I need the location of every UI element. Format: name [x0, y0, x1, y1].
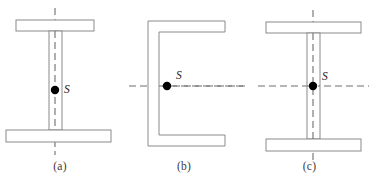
panel-b: S (b): [120, 0, 248, 182]
panel-b-drawing: S: [120, 0, 248, 182]
shear-center-dot-a: [51, 86, 59, 94]
bottom-flange-a: [6, 130, 111, 142]
panel-c: S (c): [248, 0, 371, 182]
panel-c-drawing: S: [248, 0, 371, 182]
top-flange-c: [266, 22, 361, 33]
caption-c: (c): [248, 160, 371, 172]
shear-center-label-a: S: [64, 83, 70, 95]
shear-center-figure: S (a) S (b): [0, 0, 371, 182]
shear-center-dot-c: [309, 82, 317, 90]
shear-center-label-c: S: [322, 70, 328, 82]
channel-outline-b: [148, 21, 225, 146]
shear-center-dot-b: [163, 82, 171, 90]
caption-a: (a): [0, 160, 120, 172]
top-flange-a: [16, 20, 94, 31]
bottom-flange-c: [266, 139, 361, 151]
caption-b: (b): [120, 160, 248, 172]
panel-a: S (a): [0, 0, 120, 182]
panel-a-drawing: S: [0, 0, 120, 182]
shear-center-label-b: S: [176, 69, 182, 81]
